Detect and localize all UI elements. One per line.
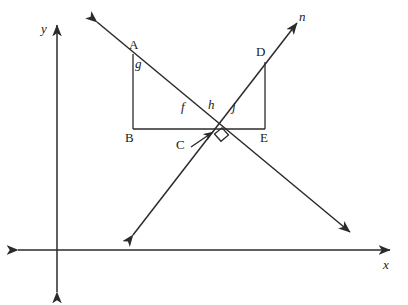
geometry-diagram: A B C D E g f h j n x y	[0, 0, 408, 305]
point-label-B: B	[125, 131, 134, 144]
figure-segments-group	[133, 54, 265, 129]
x-axis-label: x	[383, 258, 389, 271]
angle-label-j: j	[232, 100, 236, 113]
point-label-D: D	[256, 45, 265, 58]
line-m	[97, 22, 350, 232]
angle-label-g: g	[135, 57, 142, 70]
geometry-canvas	[0, 0, 408, 305]
point-label-A: A	[129, 38, 138, 51]
y-axis-label: y	[41, 22, 47, 35]
axes-group	[18, 25, 390, 292]
point-label-C: C	[176, 138, 185, 151]
angle-label-f: f	[181, 100, 185, 113]
point-label-E: E	[260, 131, 268, 144]
line-m-group	[97, 22, 350, 232]
angle-label-h: h	[208, 98, 215, 111]
line-label-n: n	[299, 10, 306, 23]
